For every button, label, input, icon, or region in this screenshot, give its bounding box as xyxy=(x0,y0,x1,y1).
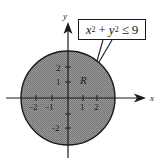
region-label: R xyxy=(79,74,87,86)
y-tick-neg2: -2 xyxy=(52,123,60,133)
inequality-var-x: x xyxy=(86,22,92,38)
callout-pointer-right xyxy=(99,40,112,62)
inequality-rhs: 9 xyxy=(132,22,139,38)
inequality-callout: x2 + y2 ≤ 9 xyxy=(78,19,146,40)
plus-sign: + xyxy=(99,22,106,38)
x-tick-neg2: -2 xyxy=(30,102,38,112)
callout-pointer-left xyxy=(97,40,103,61)
y-tick-1: 1 xyxy=(56,77,61,87)
y-tick-2: 2 xyxy=(56,63,61,73)
region-diagram: x y -2 -1 1 2 2 1 -2 R x2 xyxy=(0,0,164,168)
x-axis-label: x xyxy=(149,93,154,103)
x-tick-2: 2 xyxy=(94,102,99,112)
y-axis-label: y xyxy=(62,11,67,21)
x-tick-1: 1 xyxy=(80,102,85,112)
leq-sign: ≤ xyxy=(122,22,129,38)
x-tick-neg1: -1 xyxy=(46,102,54,112)
inequality-var-y: y xyxy=(109,22,115,38)
